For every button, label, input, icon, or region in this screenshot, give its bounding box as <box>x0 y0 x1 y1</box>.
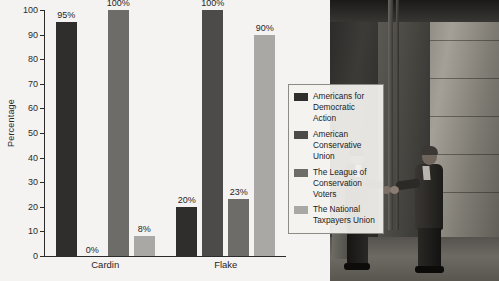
bar-value-label: 20% <box>178 195 196 205</box>
y-axis-tick-label: 50 <box>14 129 38 138</box>
y-axis-tick-label: 70 <box>14 80 38 89</box>
x-axis-line <box>44 256 286 257</box>
legend-item-label: The League of Conservation Voters <box>313 167 378 200</box>
y-axis-tick-label: 40 <box>14 154 38 163</box>
bar: 100% <box>108 10 129 256</box>
photo-person-right-legs <box>418 228 441 270</box>
plot-area: 95%0%100%8%20%100%23%90% <box>45 10 286 256</box>
photo-column-band <box>430 78 499 79</box>
bar: 20% <box>176 207 197 256</box>
photo-pipe <box>396 0 399 230</box>
legend-item-label: American Conservative Union <box>313 129 378 162</box>
chart-figure: Percentage 0102030405060708090100 95%0%1… <box>0 0 499 281</box>
bar-value-label: 0% <box>86 245 99 255</box>
y-axis-tick-label: 90 <box>14 31 38 40</box>
legend-swatch-icon <box>294 93 308 101</box>
x-axis-label: Flake <box>214 259 237 270</box>
y-axis-tick-label: 100 <box>14 6 38 15</box>
legend-item-label: Americans for Democratic Action <box>313 91 378 124</box>
legend-swatch-icon <box>294 131 308 139</box>
legend-swatch-icon <box>294 169 308 177</box>
y-axis-tick-label: 10 <box>14 227 38 236</box>
legend-item-label: The National Taxpayers Union <box>313 204 378 226</box>
bar-value-label: 8% <box>138 224 151 234</box>
bar: 8% <box>134 236 155 256</box>
bar-value-label: 100% <box>107 0 130 8</box>
photo-person-right-hair <box>421 146 438 155</box>
y-axis-tick-label: 30 <box>14 178 38 187</box>
bar-value-label: 100% <box>201 0 224 8</box>
photo-pipe <box>388 0 393 230</box>
bar-value-label: 95% <box>57 10 75 20</box>
y-axis-tick-label: 80 <box>14 55 38 64</box>
photo-shadow-top <box>330 0 499 22</box>
photo-column-band <box>430 40 499 41</box>
photo-person-left-shoes <box>344 263 370 270</box>
photo-person-right-shoes <box>415 266 444 273</box>
chart-legend: Americans for Democratic ActionAmerican … <box>288 84 384 234</box>
bar: 95% <box>56 22 77 256</box>
y-axis-tick <box>40 256 45 257</box>
legend-item[interactable]: The National Taxpayers Union <box>294 204 378 226</box>
legend-item[interactable]: American Conservative Union <box>294 129 378 162</box>
bar-value-label: 23% <box>230 187 248 197</box>
y-axis-title: Percentage <box>6 88 16 158</box>
bar: 100% <box>202 10 223 256</box>
legend-swatch-icon <box>294 206 308 214</box>
bar: 23% <box>228 199 249 256</box>
bar: 90% <box>254 35 275 256</box>
legend-item[interactable]: The League of Conservation Voters <box>294 167 378 200</box>
photo-column-band <box>430 116 499 117</box>
photo-handshake-hands <box>390 186 399 194</box>
photo-column-band <box>430 154 499 155</box>
y-axis-tick-label: 20 <box>14 203 38 212</box>
y-axis-tick-label: 0 <box>14 252 38 261</box>
photo-person-right-shirt <box>422 166 430 180</box>
y-axis-tick-label: 60 <box>14 104 38 113</box>
bar-value-label: 90% <box>256 23 274 33</box>
x-axis-label: Cardin <box>91 259 119 270</box>
legend-item[interactable]: Americans for Democratic Action <box>294 91 378 124</box>
